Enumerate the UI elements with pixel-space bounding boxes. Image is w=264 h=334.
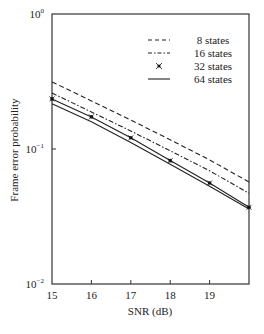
y-tick-label: 10−1 — [26, 142, 45, 155]
legend-label: 8 states — [197, 34, 230, 46]
series-line-16-states — [52, 93, 249, 193]
y-axis-label: Frame error probability — [8, 98, 20, 202]
x-axis-label: SNR (dB) — [128, 305, 173, 318]
x-tick-label: 18 — [165, 289, 177, 301]
x-tick-label: 16 — [86, 289, 98, 301]
legend-entry: 16 states — [148, 47, 232, 59]
legend-label: 64 states — [194, 73, 232, 85]
legend-label: 32 states — [194, 60, 232, 72]
data-point-marker — [128, 135, 133, 140]
data-point-marker — [89, 114, 94, 119]
x-tick-label: 17 — [125, 289, 137, 301]
legend-entry: 64 states — [148, 73, 232, 85]
legend-label: 16 states — [194, 47, 232, 59]
series-line-64-states — [52, 104, 249, 209]
y-tick-label: 10−2 — [26, 277, 45, 290]
series-line-8-states — [52, 82, 249, 182]
x-tick-label: 15 — [47, 289, 59, 301]
y-tick-label: 100 — [30, 7, 45, 20]
legend-entry: 32 states — [156, 60, 232, 72]
data-point-marker — [168, 158, 173, 163]
data-point-marker — [50, 96, 55, 101]
legend-entry: 8 states — [148, 34, 229, 46]
chart: 151617181910010−110−2 8 states16 states3… — [0, 0, 264, 334]
x-tick-label: 19 — [204, 289, 216, 301]
